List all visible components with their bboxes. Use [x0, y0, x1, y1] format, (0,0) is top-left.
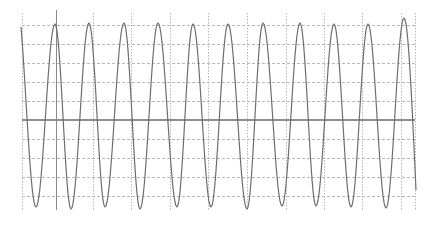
- waveform-plot: [0, 0, 432, 225]
- signal-trace: [21, 18, 416, 209]
- vertical-gridlines: [23, 13, 416, 210]
- waveform-chart: [0, 0, 432, 225]
